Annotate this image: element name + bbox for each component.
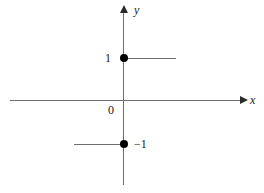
y-tick-label-negative-one: −1	[134, 138, 147, 150]
coordinate-plane-figure: 1 −1 0 y x	[0, 0, 264, 193]
upper-branch-ray	[124, 58, 176, 59]
lower-branch-endpoint-marker	[120, 140, 128, 148]
y-axis-line	[123, 10, 124, 185]
upper-branch-endpoint-marker	[120, 54, 128, 62]
x-axis-line	[10, 100, 244, 101]
y-axis-label: y	[134, 4, 139, 16]
y-tick-label-positive-one: 1	[105, 52, 111, 64]
x-axis-arrow-icon	[240, 96, 248, 104]
lower-branch-ray	[74, 144, 124, 145]
origin-label: 0	[108, 104, 114, 116]
y-axis-arrow-icon	[120, 5, 128, 13]
x-axis-label: x	[250, 94, 255, 106]
